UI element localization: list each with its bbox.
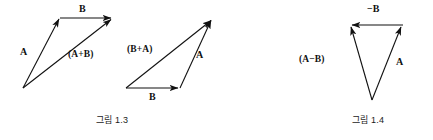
vector-label-a-minus-b: (A−B): [299, 55, 324, 65]
figure-sheet: A B (A+B) (B+A) A B −B (A−B) A 그림 1.3 그림…: [0, 0, 433, 140]
vector-label-minus-b: −B: [367, 4, 380, 14]
vector-label-b: B: [149, 92, 156, 102]
vector-label-b: B: [79, 4, 86, 14]
figure-caption-1-3: 그림 1.3: [96, 116, 128, 125]
vector-label-a-plus-b: (A+B): [68, 50, 93, 60]
vector-label-a: A: [196, 50, 203, 60]
arrow-a-plus-b: [23, 20, 111, 89]
vector-label-a: A: [396, 57, 403, 67]
figure-caption-1-4: 그림 1.4: [352, 116, 384, 125]
arrow-a: [23, 19, 59, 88]
arrow-a-minus-b: [351, 27, 372, 100]
vector-label-a: A: [20, 47, 27, 57]
vector-label-b-plus-a: (B+A): [127, 45, 152, 55]
panel-a-plus-b-arrows: [23, 18, 111, 88]
